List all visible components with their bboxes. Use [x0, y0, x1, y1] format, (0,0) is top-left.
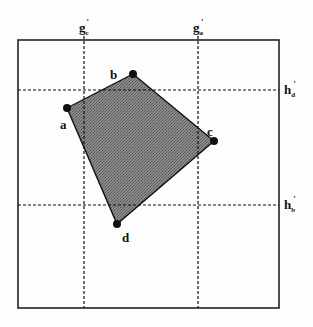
line-label-g_c: gc': [79, 17, 89, 37]
vertex-point-a: [63, 104, 71, 112]
vertex-label-a: a: [60, 117, 67, 132]
vertex-label-d: d: [122, 230, 130, 245]
line-label-h_d: hd': [284, 79, 296, 99]
diagram-canvas: abcd gc'ga'hd'hb': [0, 0, 313, 327]
quadrilateral-diagram: abcd gc'ga'hd'hb': [0, 0, 313, 327]
vertex-label-b: b: [110, 67, 117, 82]
vertex-label-c: c: [207, 124, 213, 139]
line-label-h_b: hb': [284, 194, 296, 214]
line-label-g_a: ga': [193, 17, 204, 37]
vertex-point-d: [113, 220, 121, 228]
vertex-point-b: [129, 70, 137, 78]
quadrilateral-abcd: [67, 74, 214, 224]
